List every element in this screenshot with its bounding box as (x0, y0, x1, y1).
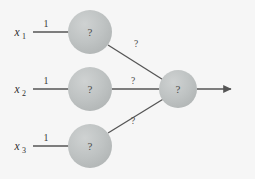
input-variable-3: x (13, 140, 20, 152)
input-subscript-2: 2 (22, 89, 26, 98)
input-variable-2: x (13, 83, 20, 95)
input-variable-1: x (13, 26, 20, 38)
hidden-node-3-label: ? (88, 140, 93, 152)
output-node-label: ? (176, 83, 181, 95)
input-subscript-3: 3 (22, 146, 26, 155)
weight-label-1: 1 (44, 18, 49, 29)
edge-label-3: ? (131, 116, 135, 126)
edge-label-2: ? (131, 76, 135, 86)
neural-network-figure: ? ? ? ? ? ? ? 1 1 1 x 1 x 2 x 3 (0, 0, 255, 179)
diagram-canvas: ? ? ? ? ? ? ? 1 1 1 x 1 x 2 x 3 (0, 0, 255, 179)
hidden-node-1-label: ? (88, 26, 93, 38)
weight-label-2: 1 (44, 75, 49, 86)
hidden-node-2-label: ? (88, 83, 93, 95)
edge-label-1: ? (134, 39, 138, 49)
weight-label-3: 1 (44, 132, 49, 143)
input-subscript-1: 1 (22, 32, 26, 41)
